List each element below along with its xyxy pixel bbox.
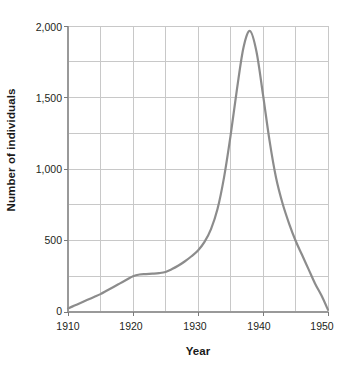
chart-figure: Number of individuals Year 2,000 1,500 1… [0,0,353,370]
plot-area [0,0,353,370]
axis-ticks [64,26,328,316]
